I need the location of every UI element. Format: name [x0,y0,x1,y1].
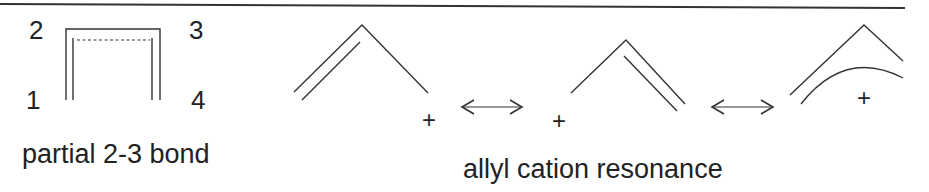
allyl-structure-3 [790,25,903,104]
charge-plus-1: + [422,108,436,132]
allyl-structure-2 [571,40,685,111]
atom-label-1: 1 [26,87,40,113]
atom-label-3: 3 [189,17,203,43]
caption-allyl-resonance: allyl cation resonance [463,156,723,183]
partial-bond-structure [66,29,160,100]
delocalization-arc [801,68,903,104]
resonance-arrow-2 [712,100,773,114]
atom-label-2: 2 [29,17,43,43]
charge-plus-2: + [552,109,566,133]
resonance-arrow-1 [462,100,522,114]
caption-partial-bond: partial 2-3 bond [22,141,210,168]
top-rule [0,4,905,8]
charge-plus-3: + [857,86,871,110]
atom-label-4: 4 [191,87,205,113]
allyl-structure-1 [294,25,428,100]
